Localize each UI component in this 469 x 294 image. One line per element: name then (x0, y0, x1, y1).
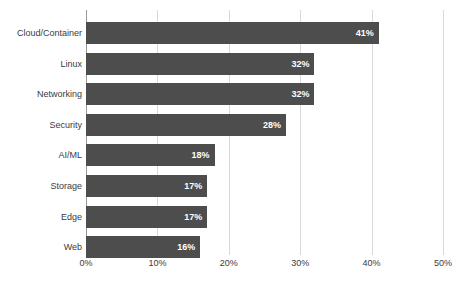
bar-row: 32% (86, 83, 314, 105)
x-tick-label: 30% (270, 258, 330, 268)
category-label-ai-ml: AI/ML (0, 144, 82, 166)
value-axis-labels: 0%10%20%30%40%50% (0, 258, 469, 278)
bar-row: 32% (86, 53, 314, 75)
bar-row: 28% (86, 114, 286, 136)
category-label-networking: Networking (0, 83, 82, 105)
x-tick-label: 50% (413, 258, 469, 268)
category-label-storage: Storage (0, 175, 82, 197)
bar-chart: Cloud/ContainerLinuxNetworkingSecurityAI… (0, 0, 469, 294)
bar-value-label: 32% (86, 53, 314, 75)
bar-value-label: 32% (86, 83, 314, 105)
category-label-linux: Linux (0, 53, 82, 75)
category-axis-labels: Cloud/ContainerLinuxNetworkingSecurityAI… (0, 10, 82, 255)
x-tick-label: 0% (56, 258, 116, 268)
bar-value-label: 41% (86, 22, 379, 44)
bar-value-label: 18% (86, 144, 215, 166)
category-label-cloud-container: Cloud/Container (0, 22, 82, 44)
bar-value-label: 28% (86, 114, 286, 136)
bar-row: 16% (86, 236, 200, 258)
bar-row: 41% (86, 22, 379, 44)
gridline-50 (443, 10, 444, 255)
bar-row: 17% (86, 175, 207, 197)
x-tick-label: 10% (127, 258, 187, 268)
bar-value-label: 17% (86, 175, 207, 197)
bars-layer: 41%32%32%28%18%17%17%16% (86, 10, 443, 255)
bar-row: 18% (86, 144, 215, 166)
bar-value-label: 17% (86, 206, 207, 228)
category-label-web: Web (0, 236, 82, 258)
x-tick-label: 20% (199, 258, 259, 268)
bar-row: 17% (86, 206, 207, 228)
category-label-security: Security (0, 114, 82, 136)
category-label-edge: Edge (0, 206, 82, 228)
x-tick-label: 40% (342, 258, 402, 268)
bar-value-label: 16% (86, 236, 200, 258)
